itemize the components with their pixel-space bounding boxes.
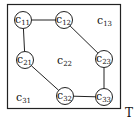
edge-c32-c21 — [31, 66, 58, 91]
node-label-c23: c23 — [96, 53, 111, 66]
edge-c33-c32 — [73, 96, 95, 97]
node-label-c32: c32 — [57, 90, 72, 103]
node-label-c33: c33 — [96, 91, 111, 104]
node-label-subscript: 12 — [62, 19, 71, 27]
node-label-c12: c12 — [56, 14, 71, 27]
node-label-subscript: 22 — [63, 60, 72, 68]
node-label-subscript: 13 — [103, 20, 112, 28]
node-label-subscript: 31 — [22, 97, 31, 105]
node-label-subscript: 32 — [63, 95, 72, 103]
node-label-c31: c31 — [16, 92, 31, 105]
node-label-c22: c22 — [57, 55, 72, 68]
node-label-subscript: 11 — [21, 19, 30, 27]
edge-c21-c11 — [23, 28, 24, 51]
frame-label: T — [125, 107, 133, 119]
node-label-subscript: 23 — [102, 58, 111, 66]
node-label-c21: c21 — [17, 54, 32, 67]
node-label-c13: c13 — [97, 15, 112, 28]
node-label-subscript: 21 — [23, 59, 32, 67]
node-label-subscript: 33 — [102, 96, 111, 104]
edge-c12-c23 — [70, 26, 98, 53]
node-label-c11: c11 — [15, 14, 30, 27]
